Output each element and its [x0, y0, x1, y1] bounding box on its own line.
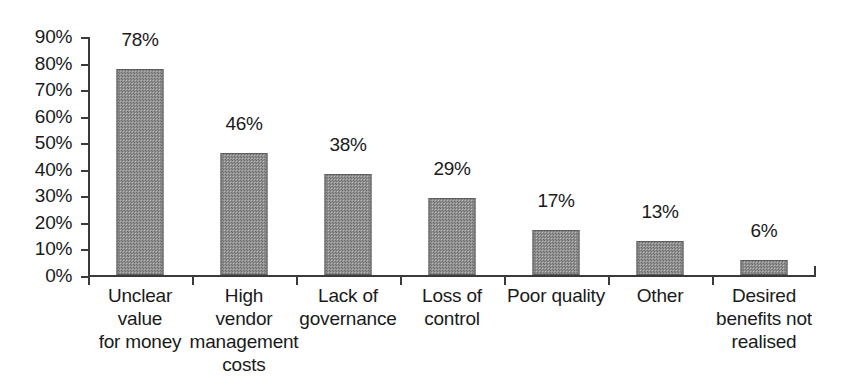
category-label-row: Unclear value for money High vendor mana…	[88, 284, 816, 380]
bar-value-label: 78%	[121, 30, 158, 49]
category-label-loss-of-control: Loss of control	[400, 284, 504, 330]
bar-group: 78%	[88, 0, 192, 277]
category-label-line: vendor	[188, 307, 300, 330]
bar-loss-of-control	[429, 198, 476, 275]
bar-value-label: 38%	[329, 135, 366, 154]
category-label-line: Unclear	[84, 284, 196, 307]
category-label-line: management	[188, 330, 300, 353]
bar-group: 29%	[400, 0, 504, 277]
bar-group: 38%	[296, 0, 400, 277]
category-label-lack-of-governance: Lack of governance	[291, 284, 405, 330]
category-label-line: Desired	[708, 284, 820, 307]
category-label-line: realised	[708, 330, 820, 353]
bar-desired-benefits-not-realised	[741, 260, 788, 275]
x-axis-line	[88, 275, 816, 277]
bar-unclear-value-for-money	[117, 69, 164, 275]
x-axis-end-cap	[814, 266, 816, 276]
category-label-line: control	[400, 307, 504, 330]
category-label-line: Lack of	[291, 284, 405, 307]
bar-poor-quality	[533, 230, 580, 275]
bar-group: 46%	[192, 0, 296, 277]
bar-value-label: 29%	[433, 159, 470, 178]
y-tick-label: 0%	[16, 266, 72, 285]
bar-value-label: 6%	[751, 221, 778, 240]
y-tick-label: 90%	[16, 27, 72, 46]
category-label-line: Loss of	[400, 284, 504, 307]
category-label-line: costs	[188, 353, 300, 376]
category-label-line: Poor quality	[500, 284, 612, 307]
bar-value-label: 13%	[641, 202, 678, 221]
category-label-unclear-value-for-money: Unclear value for money	[84, 284, 196, 353]
bar-chart: 90% 80% 70% 60% 50% 40% 30% 20% 10% 0%	[0, 0, 854, 380]
category-label-other: Other	[608, 284, 712, 307]
y-tick-label: 20%	[16, 213, 72, 232]
bar-group: 17%	[504, 0, 608, 277]
category-label-line: benefits not	[708, 307, 820, 330]
bar-group: 6%	[712, 0, 816, 277]
y-tick-label: 30%	[16, 186, 72, 205]
category-label-poor-quality: Poor quality	[500, 284, 612, 307]
category-label-line: for money	[84, 330, 196, 353]
category-label-line: governance	[291, 307, 405, 330]
category-label-line: value	[84, 307, 196, 330]
bar-lack-of-governance	[325, 174, 372, 275]
category-label-line: Other	[608, 284, 712, 307]
bar-group: 13%	[608, 0, 712, 277]
category-label-high-vendor-management-costs: High vendor management costs	[188, 284, 300, 376]
bar-high-vendor-management-costs	[221, 153, 268, 275]
bar-other	[637, 241, 684, 275]
y-tick-label: 40%	[16, 160, 72, 179]
bar-value-label: 46%	[225, 114, 262, 133]
y-tick-label: 10%	[16, 239, 72, 258]
y-tick-label: 70%	[16, 80, 72, 99]
y-tick-label: 80%	[16, 54, 72, 73]
category-label-desired-benefits-not-realised: Desired benefits not realised	[708, 284, 820, 353]
category-label-line: High	[188, 284, 300, 307]
bar-value-label: 17%	[537, 191, 574, 210]
y-tick-label: 50%	[16, 133, 72, 152]
plot-area: 78% 46% 38% 29% 17% 13% 6%	[88, 0, 816, 277]
y-tick-label: 60%	[16, 107, 72, 126]
